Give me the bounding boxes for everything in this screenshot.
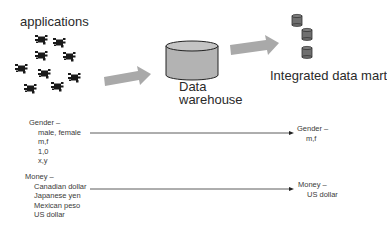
gender-target-value: m,f xyxy=(297,134,328,144)
small-database-cylinder-icon xyxy=(292,14,312,58)
money-source-value: Canadian dollar xyxy=(25,182,87,192)
data-warehouse-label: Data warehouse xyxy=(179,80,243,106)
money-target-list: Money – US dollar xyxy=(298,180,338,199)
money-source-value: Mexican peso xyxy=(25,201,87,211)
gender-source-value: male, female xyxy=(29,128,81,138)
money-source-value: Japanese yen xyxy=(25,191,87,201)
data-warehouse-label-line2: warehouse xyxy=(179,93,243,106)
mapping-arrow-gender xyxy=(90,131,294,135)
gender-source-heading: Gender – xyxy=(29,118,81,128)
money-source-list: Money – Canadian dollar Japanese yen Mex… xyxy=(25,172,87,220)
mapping-arrow-money xyxy=(90,187,294,191)
money-source-value: US dollar xyxy=(25,210,87,220)
gender-source-list: Gender – male, female m,f 1,0 x,y xyxy=(29,118,81,166)
applications-label: applications xyxy=(20,14,89,29)
gender-target-heading: Gender – xyxy=(297,124,328,134)
application-component-icon xyxy=(15,35,81,94)
gender-source-value: x,y xyxy=(29,156,81,166)
money-source-heading: Money – xyxy=(25,172,87,182)
gender-source-value: m,f xyxy=(29,137,81,147)
gender-source-value: 1,0 xyxy=(29,147,81,157)
database-cylinder-icon xyxy=(166,41,218,80)
integrated-data-mart-label: Integrated data mart xyxy=(270,68,387,83)
block-arrow-right-icon xyxy=(104,66,151,86)
money-target-heading: Money – xyxy=(298,180,338,190)
money-target-value: US dollar xyxy=(298,190,338,200)
gender-target-list: Gender – m,f xyxy=(297,124,328,143)
block-arrow-right-icon xyxy=(230,35,279,55)
